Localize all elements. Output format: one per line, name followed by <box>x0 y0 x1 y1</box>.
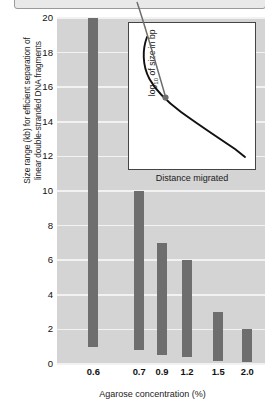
bar-0.9 <box>157 243 167 355</box>
y-axis-tick-label: 18 <box>31 48 53 58</box>
y-axis-tick-label: 12 <box>31 151 53 161</box>
x-axis-tick-label: 0.6 <box>76 366 110 378</box>
y-axis-tick-label: 2 <box>31 324 53 334</box>
gridline <box>57 363 265 365</box>
bar-2.0 <box>242 329 252 362</box>
inset-x-axis-label: Distance migrated <box>122 173 262 183</box>
inset-y-axis-label-main: of size in bp <box>147 30 157 76</box>
bar-1.5 <box>213 312 223 360</box>
y-axis-tick-label: 0 <box>31 359 53 369</box>
inset-y-axis-label-prefix: log <box>147 85 157 96</box>
y-axis-tick-label: 20 <box>31 13 53 23</box>
inset-y-axis-label-subscript: 10 <box>152 78 159 85</box>
y-axis-tick-label: 6 <box>31 255 53 265</box>
bar-1.2 <box>182 260 192 357</box>
x-axis-title: Agarose concentration (%) <box>40 389 265 400</box>
x-axis-tick-label: 1.2 <box>170 366 204 378</box>
inset-y-axis-label: log10 of size in bp <box>148 3 160 123</box>
y-axis-tick-label: 10 <box>31 186 53 196</box>
y-axis-tick-label: 14 <box>31 117 53 127</box>
bar-0.7 <box>134 191 144 350</box>
y-axis-tick-label: 16 <box>31 82 53 92</box>
y-axis-tick-labels: 02468101214161820 <box>27 18 53 364</box>
x-axis-tick-labels: 0.60.70.91.21.52.0 <box>57 366 265 380</box>
x-axis-tick-label: 2.0 <box>230 366 264 378</box>
bar-0.6 <box>88 18 98 347</box>
y-axis-tick-label: 8 <box>31 221 53 231</box>
y-axis-tick-label: 4 <box>31 290 53 300</box>
caption-box <box>14 0 265 9</box>
